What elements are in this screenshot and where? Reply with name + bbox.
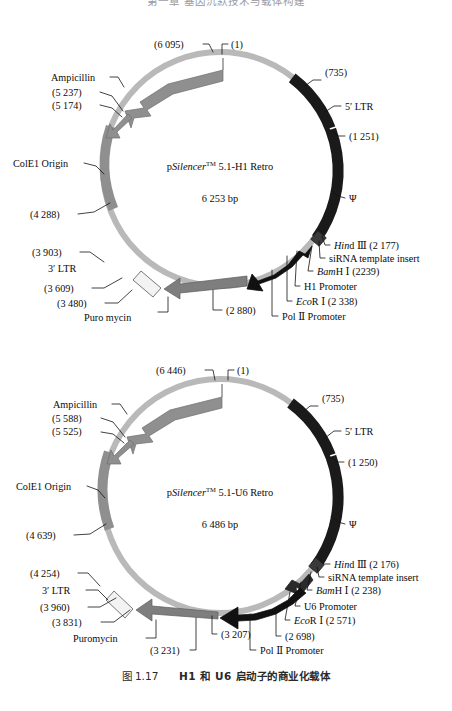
leader-4254 [78,573,100,586]
label-3ltr: 3′ LTR [42,585,70,596]
feature-ampicillin-arrow [125,58,223,128]
running-header: 第一章 基因沉默技术与载体构建 [0,0,452,8]
plasmid-size-h1: 6 253 bp [202,193,238,204]
label-3960: (3 960) [40,602,70,614]
leader-puromycin [158,297,168,312]
leader-3609 [92,278,122,288]
label-2698: (2 698) [285,631,315,643]
label-h1-promoter: H1 Promoter [304,281,358,292]
label-4639: (4 639) [26,530,56,542]
label-pol2-promoter: Pol Ⅱ Promoter [282,311,346,322]
leader-4639 [74,524,106,535]
label-5174: (5 174) [52,100,82,112]
figure-page: 第一章 基因沉默技术与载体构建 [0,0,452,711]
plasmid-name-u6: pSilencerTM 5.1-U6 Retro [167,486,274,498]
leader-4288 [78,203,110,214]
label-sirna-insert: siRNA template insert [328,572,419,583]
label-5525: (5 525) [52,426,82,438]
label-ecor1: EcoR Ⅰ (2 338) [295,296,357,308]
label-5237: (5 237) [52,87,82,99]
label-bamh1: BamH Ⅰ (2239) [317,266,379,278]
leader-puromycin [146,620,156,638]
label-psi: Ψ [349,193,357,204]
label-6095: (6 095) [154,39,184,51]
feature-5ltr-psi-arc [291,403,339,567]
label-origin: (1) [231,39,243,51]
label-colE1: ColE1 Origin [16,481,71,492]
leader-ampicillin [110,77,124,87]
label-1250: (1 250) [348,457,378,469]
leader-3480 [105,290,132,303]
label-puromycin: Puro mycin [84,312,131,323]
plasmid-map-u6: (6 446) (1) Ampicillin (5 588) (5 525) C… [0,348,452,666]
feature-ampicillin-arrowhead [106,114,132,138]
label-5588: (5 588) [52,413,82,425]
leader-ampicillin [112,404,127,414]
leader-3231 [190,618,196,650]
label-ampicillin: Ampicillin [51,72,95,83]
plasmid-size-u6: 6 486 bp [202,519,238,530]
label-735: (735) [325,67,347,79]
label-3831: (3 831) [52,617,82,629]
label-3609: (3 609) [44,283,74,295]
label-3207: (3 207) [221,629,251,641]
label-colE1: ColE1 Origin [13,158,68,169]
figure-caption: 图 1.17 H1 和 U6 启动子的商业化载体 [0,668,452,683]
label-puromycin: Puromycin [73,633,118,644]
leader-2880 [213,290,222,310]
label-hind3: Hind Ⅲ (2 177) [333,240,399,252]
caption-text: H1 和 U6 启动子的商业化载体 [179,670,330,682]
caption-number: 图 1.17 [122,670,159,682]
feature-ampicillin-arrowhead [107,440,134,464]
label-ecor1: EcoR Ⅰ (2 571) [293,615,355,627]
label-3903: (3 903) [32,247,62,259]
feature-3ltr-box [133,271,161,297]
label-ampicillin: Ampicillin [53,399,97,410]
plasmid-name-h1: pSilencerTM 5.1-H1 Retro [167,160,274,172]
label-5ltr: 5′ LTR [345,426,373,437]
label-sirna-insert: siRNA template insert [329,253,420,264]
label-6446: (6 446) [156,365,186,377]
label-4254: (4 254) [30,568,60,580]
label-3480: (3 480) [57,298,87,310]
leader-3ltr [86,590,108,600]
label-pol2-promoter: Pol Ⅱ Promoter [260,645,324,656]
feature-3ltr-box [106,591,133,618]
label-4288: (4 288) [30,209,60,221]
label-1251: (1 251) [349,131,379,143]
label-origin: (1) [237,365,249,377]
label-bamh1: BamH Ⅰ (2 238) [316,585,381,597]
label-735: (735) [322,393,344,405]
leader-3903 [80,252,104,262]
label-psi: Ψ [349,519,357,530]
label-3231: (3 231) [150,645,180,657]
label-5ltr: 5′ LTR [345,101,373,112]
feature-colE1-arc [105,127,114,210]
feature-ampicillin-arrow [127,384,222,454]
plasmid-map-h1: (6 095) (1) Ampicillin (5 237) (5 174) C… [0,18,452,348]
label-3ltr: 3′ LTR [48,263,76,274]
label-2880: (2 880) [226,305,256,317]
label-u6-promoter: U6 Promoter [304,601,358,612]
feature-5ltr-psi-arc [292,78,338,239]
label-hind3: Hind Ⅲ (2 176) [333,559,399,571]
